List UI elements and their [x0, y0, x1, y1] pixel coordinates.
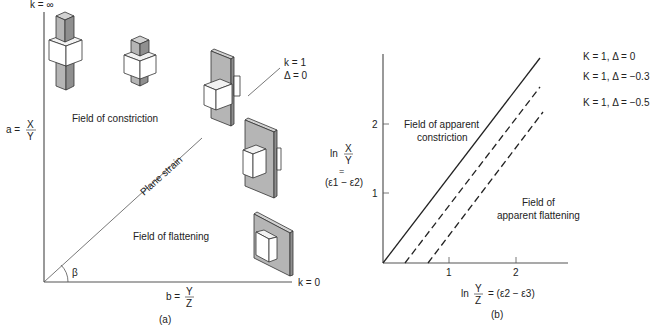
- panel-a-caption: (a): [159, 314, 171, 325]
- y-label-num: X: [27, 119, 34, 130]
- line-label-delta-0: K = 1, Δ = 0: [583, 51, 636, 62]
- y-label-strain: (ε1 − ε2): [325, 177, 363, 188]
- field-apparent-constriction-line2: constriction: [417, 132, 468, 143]
- x-label-den: Z: [475, 295, 481, 306]
- delta-zero-label: Δ = 0: [284, 70, 308, 81]
- panel-b: 2 1 1 2 K = 1, Δ = 0 K = 1, Δ = −0.3 K =…: [325, 51, 650, 320]
- x-label-den: Z: [186, 298, 192, 309]
- panel-b-caption: (b): [491, 309, 503, 320]
- y-label-eq: =: [339, 166, 344, 176]
- oblate-block-1: [243, 118, 281, 198]
- prolate-block-1: [49, 12, 82, 90]
- x-tick-label-1: 1: [446, 267, 452, 278]
- field-of-flattening-label: Field of flattening: [133, 231, 209, 242]
- panel-a-x-label: b = Y Z: [166, 286, 194, 309]
- x-label-prefix: b =: [166, 291, 180, 302]
- k-infinity-label: k = ∞: [30, 0, 54, 10]
- flinn-diagram-figure: β k = ∞ k = 0 k = 1 Δ = 0 a = X Y b = Y …: [0, 0, 658, 329]
- y-tick-label-2: 2: [372, 119, 378, 130]
- field-of-constriction-label: Field of constriction: [72, 113, 158, 124]
- field-apparent-flattening-line2: apparent flattening: [497, 210, 580, 221]
- oblate-block-2: [254, 212, 293, 276]
- panel-a: β k = ∞ k = 0 k = 1 Δ = 0 a = X Y b = Y …: [6, 0, 320, 325]
- field-apparent-flattening-line1: Field of: [522, 197, 555, 208]
- x-label-num: Y: [475, 283, 482, 294]
- panel-b-y-label: ln X Y = (ε1 − ε2): [325, 143, 363, 188]
- x-label-strain: = (ε2 − ε3): [488, 288, 535, 299]
- angle-arc: [61, 265, 68, 282]
- y-tick-label-1: 1: [372, 188, 378, 199]
- y-label-num: X: [345, 143, 352, 154]
- line-delta-minus-0-3: [405, 87, 540, 263]
- prolate-block-2: [124, 36, 156, 86]
- angle-label: β: [72, 267, 78, 278]
- line-label-delta-minus-0-5: K = 1, Δ = −0.5: [583, 97, 650, 108]
- line-delta-0: [383, 58, 540, 263]
- y-label-den: Y: [27, 131, 34, 142]
- plane-strain-block: [204, 49, 240, 126]
- field-apparent-constriction-line1: Field of apparent: [404, 119, 479, 130]
- k-zero-label: k = 0: [298, 277, 320, 288]
- plane-strain-line-upper: [248, 68, 280, 96]
- x-label-num: Y: [186, 286, 193, 297]
- x-tick-label-2: 2: [513, 267, 519, 278]
- y-label-den: Y: [345, 155, 352, 166]
- line-label-delta-minus-0-3: K = 1, Δ = −0.3: [583, 71, 650, 82]
- k-one-label: k = 1: [284, 57, 306, 68]
- panel-a-y-label: a = X Y: [6, 119, 36, 142]
- plane-strain-label: Plane strain: [138, 154, 185, 198]
- y-label-ln: ln: [330, 148, 338, 159]
- y-label-prefix: a =: [6, 124, 20, 135]
- x-label-ln: ln: [461, 288, 469, 299]
- panel-b-x-label: ln Y Z = (ε2 − ε3): [461, 283, 535, 306]
